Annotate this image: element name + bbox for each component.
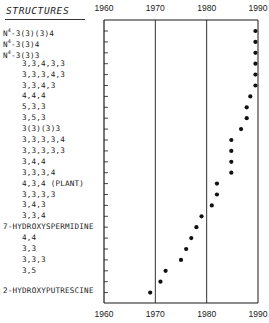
data-point [229,149,233,153]
data-point [229,171,233,175]
data-point [184,247,188,251]
data-point [179,258,183,262]
data-point [215,182,219,186]
data-point [245,105,249,109]
data-point [229,138,233,142]
data-point [253,40,257,44]
data-point [148,291,152,295]
data-point [245,116,249,120]
data-point [239,127,243,131]
data-point [253,51,257,55]
data-point [199,214,203,218]
data-point [248,94,252,98]
data-point [189,236,193,240]
data-point [210,203,214,207]
data-point [253,73,257,77]
data-point [229,160,233,164]
data-point [194,225,198,229]
plot-area [0,0,269,323]
data-point [253,83,257,87]
data-point [164,269,168,273]
structures-timeline-chart: STRUCTURES N4-3(3)(3)4N4-3(3)4N4-3(3)33,… [0,0,269,323]
data-point [158,280,162,284]
data-point [253,62,257,66]
data-point [253,29,257,33]
data-point [215,192,219,196]
